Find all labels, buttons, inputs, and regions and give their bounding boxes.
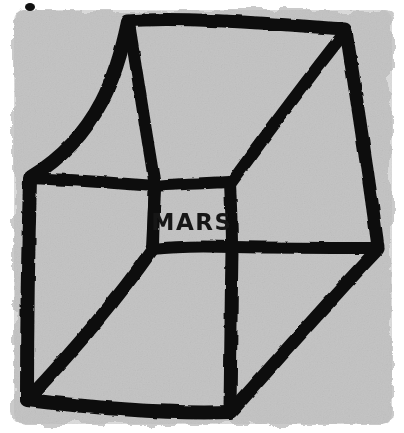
cube-edge-face-top — [155, 182, 230, 186]
cube-edge-vert-center-lower — [230, 248, 232, 412]
mars-label-group: MARS — [152, 209, 233, 235]
cube-edge-left-outer-edge — [27, 179, 30, 399]
mars-cube-drawing: MARS — [0, 0, 404, 433]
illustration-canvas: MARS — [0, 0, 404, 433]
ink-speck-icon — [25, 3, 35, 11]
cube-edge-face-bottom — [152, 246, 233, 249]
mars-label: MARS — [152, 209, 233, 235]
artboard: MARS — [0, 0, 404, 433]
cube-edge-inner-horiz-left — [31, 178, 156, 186]
cube-edge-inner-horiz-right — [233, 247, 377, 248]
